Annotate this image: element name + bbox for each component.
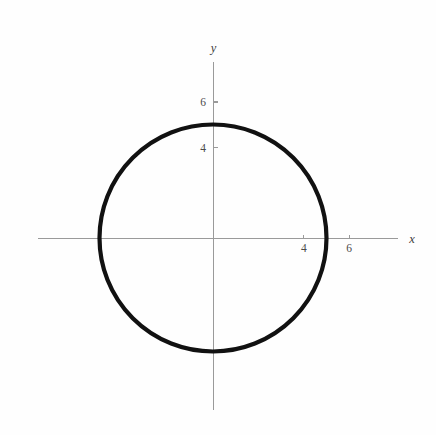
x-tick-label-6: 6 bbox=[346, 242, 352, 254]
y-tick-label-6: 6 bbox=[200, 96, 206, 108]
x-axis-label: x bbox=[408, 232, 415, 246]
y-tick-label-4: 4 bbox=[200, 142, 206, 154]
x-tick-label-4: 4 bbox=[301, 242, 307, 254]
plot-canvas: 4 6 4 6 x y bbox=[0, 0, 436, 435]
circle-plot-figure: 4 6 4 6 x y bbox=[0, 0, 436, 435]
y-axis-label: y bbox=[209, 41, 217, 55]
